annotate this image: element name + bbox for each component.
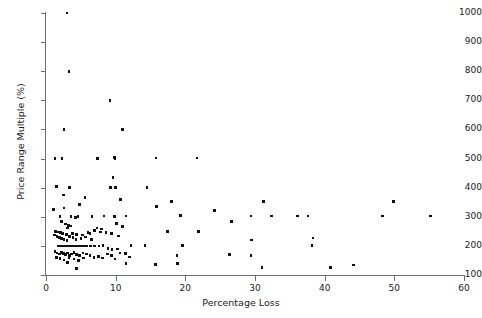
data-point <box>311 244 314 247</box>
data-point <box>63 207 66 210</box>
data-point <box>77 215 80 218</box>
x-tick-label: 10 <box>101 283 131 293</box>
data-point <box>85 253 88 256</box>
data-point <box>121 225 124 228</box>
data-point <box>296 215 299 218</box>
data-point <box>68 186 71 189</box>
x-tick-mark <box>116 276 117 281</box>
data-point <box>166 230 169 233</box>
data-point <box>101 257 104 260</box>
data-point <box>121 128 124 131</box>
data-point <box>70 215 73 218</box>
data-point <box>89 232 92 235</box>
data-point <box>81 234 84 237</box>
data-point <box>124 252 127 255</box>
data-point <box>65 233 68 236</box>
data-point <box>116 248 119 251</box>
data-point <box>146 186 149 189</box>
data-point <box>69 225 72 228</box>
x-tick-mark <box>255 276 256 281</box>
x-axis-label: Percentage Loss <box>0 297 482 308</box>
data-point <box>117 235 120 238</box>
data-point <box>63 128 66 131</box>
data-point <box>99 231 102 234</box>
data-point <box>59 215 62 218</box>
data-point <box>155 157 158 160</box>
data-point <box>86 245 89 248</box>
data-point <box>176 262 179 265</box>
data-point <box>93 245 96 248</box>
data-point <box>68 70 71 73</box>
data-point <box>96 157 99 160</box>
x-tick-mark <box>464 276 465 281</box>
data-point <box>114 186 117 189</box>
data-point <box>352 264 355 267</box>
data-point <box>68 256 71 259</box>
data-point <box>230 220 233 223</box>
data-point <box>75 267 78 270</box>
data-point <box>329 266 332 269</box>
data-point <box>144 244 147 247</box>
data-point <box>77 259 80 262</box>
data-point <box>250 239 253 242</box>
x-tick-label: 40 <box>310 283 340 293</box>
plot-area <box>46 13 464 275</box>
data-point <box>106 253 109 256</box>
x-tick-label: 60 <box>449 283 479 293</box>
data-point <box>170 200 173 203</box>
data-point <box>261 266 264 269</box>
data-point <box>60 220 63 223</box>
data-point <box>102 244 105 247</box>
x-tick-mark <box>325 276 326 281</box>
x-tick-label: 20 <box>170 283 200 293</box>
data-point <box>125 262 128 265</box>
data-point <box>75 233 78 236</box>
x-tick-mark <box>185 276 186 281</box>
data-point <box>55 256 58 259</box>
data-point <box>78 203 81 206</box>
data-point <box>91 215 94 218</box>
x-tick-mark <box>46 276 47 281</box>
data-point <box>59 257 62 260</box>
data-point <box>111 248 114 251</box>
data-point <box>115 222 118 225</box>
data-point <box>90 238 93 241</box>
data-point <box>110 254 113 257</box>
data-point <box>80 237 83 240</box>
data-point <box>84 196 87 199</box>
data-point <box>84 236 87 239</box>
data-point <box>54 157 57 160</box>
data-point <box>213 209 216 212</box>
data-point <box>114 258 117 261</box>
data-point <box>392 200 395 203</box>
x-tick-mark <box>394 276 395 281</box>
data-point <box>89 254 92 257</box>
data-point <box>66 261 69 264</box>
data-point <box>110 232 113 235</box>
data-point <box>155 205 158 208</box>
x-tick-label: 30 <box>240 283 270 293</box>
data-point <box>97 255 100 258</box>
data-point <box>103 215 106 218</box>
scatter-chart: 1002003004005006007008009001000 01020304… <box>0 0 482 318</box>
data-point <box>61 232 64 235</box>
data-point <box>307 215 310 218</box>
data-point <box>228 253 231 256</box>
data-point <box>105 231 108 234</box>
y-axis-label: Price Range Multiple (%) <box>15 62 26 222</box>
x-tick-label: 0 <box>31 283 61 293</box>
data-point <box>109 186 112 189</box>
data-point <box>66 227 69 230</box>
data-point <box>181 244 184 247</box>
data-point <box>119 198 122 201</box>
data-point <box>262 200 265 203</box>
data-point <box>107 247 110 250</box>
data-point <box>250 254 253 257</box>
data-point <box>112 176 115 179</box>
data-point <box>196 157 199 160</box>
data-point <box>68 235 71 238</box>
data-point <box>197 230 200 233</box>
data-point <box>93 256 96 259</box>
data-point <box>381 215 384 218</box>
data-point <box>270 215 273 218</box>
